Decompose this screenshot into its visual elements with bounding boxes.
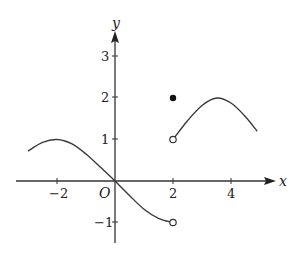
open-endpoint-marker: [170, 136, 176, 142]
origin-label: O: [99, 185, 111, 201]
x-axis-label: x: [279, 173, 287, 189]
x-tick-label: −2: [49, 186, 68, 201]
y-axis-label: y: [111, 15, 121, 31]
right-branch-curve: [173, 98, 257, 140]
y-tick-label: −1: [94, 215, 113, 230]
y-tick-label: 1: [101, 132, 109, 147]
x-tick-label: 4: [227, 186, 235, 201]
y-tick-label: 3: [101, 49, 109, 64]
x-tick-label: 2: [169, 186, 177, 201]
y-tick-label: 2: [101, 90, 109, 105]
open-endpoint-marker: [170, 219, 176, 225]
filled-point-marker: [170, 95, 176, 101]
function-graph: x y O −2 2 4 3 2 1 −1: [0, 0, 299, 259]
